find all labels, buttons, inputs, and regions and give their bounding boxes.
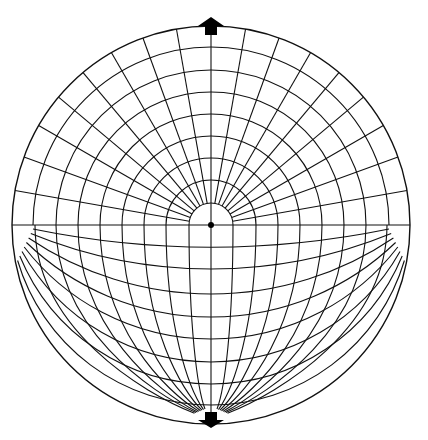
radial-spoke	[215, 29, 246, 203]
arrow-up-icon	[198, 17, 224, 35]
radial-spoke	[39, 126, 192, 215]
radial-spoke	[176, 29, 207, 203]
radial-spoke	[222, 53, 311, 206]
radial-spoke	[112, 53, 201, 206]
meridian-curve	[35, 225, 195, 413]
radial-spoke	[230, 126, 383, 215]
arrow-down-icon	[198, 412, 224, 428]
meridian-curve	[228, 225, 388, 413]
projection-net-diagram	[0, 0, 428, 440]
radial-spoke	[233, 190, 407, 221]
center-point-icon	[208, 222, 214, 228]
radial-spoke	[15, 190, 189, 221]
